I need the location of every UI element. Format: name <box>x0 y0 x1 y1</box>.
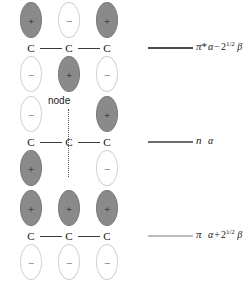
orbital-symbol-superscript: * <box>202 40 208 52</box>
carbon-atom-label: C <box>24 229 38 243</box>
energy-beta: β <box>237 229 242 240</box>
energy-exponent: 1/2 <box>226 228 235 236</box>
energy-operator: + <box>213 229 221 240</box>
orbital-lobe-top-0: + <box>20 2 42 38</box>
orbital-symbol-text: n <box>196 134 202 146</box>
energy-operator <box>213 135 215 146</box>
orbital-lobe-top-2: + <box>96 190 118 226</box>
mo-row-antibonding: + − + − + − C C C π* α−21/2 β <box>0 0 250 94</box>
orbital-lobe-bottom-2: − <box>96 56 118 92</box>
energy-expression-column: α−21/2 β <box>208 0 250 94</box>
energy-expression: α−21/2 β <box>208 40 242 52</box>
node-label: node <box>48 95 70 106</box>
carbon-bond <box>40 48 62 49</box>
orbital-symbol-text: π <box>196 228 202 240</box>
carbon-atom-label: C <box>100 229 114 243</box>
energy-operator: − <box>213 41 221 52</box>
carbon-atom-label: C <box>62 41 76 55</box>
energy-exponent: 1/2 <box>226 40 235 48</box>
orbital-symbol-label: n <box>196 134 202 146</box>
energy-level-line <box>148 47 193 49</box>
energy-expression-column: α <box>208 94 250 188</box>
energy-expression: α <box>208 134 215 146</box>
carbon-skeleton: C C C <box>0 135 130 149</box>
orbital-lobe-bottom-1: + <box>58 56 80 92</box>
orbital-lobe-top-1: − <box>58 2 80 38</box>
orbital-lobe-bottom-0: − <box>20 56 42 92</box>
carbon-atom-label: C <box>24 41 38 55</box>
carbon-skeleton: C C C <box>0 41 130 55</box>
orbital-lobe-top-2: + <box>96 2 118 38</box>
carbon-skeleton: C C C <box>0 229 130 243</box>
carbon-atom-label: C <box>62 229 76 243</box>
orbital-lobe-top-1: + <box>58 190 80 226</box>
carbon-bond <box>78 236 100 237</box>
carbon-bond <box>40 236 62 237</box>
carbon-bond <box>78 142 100 143</box>
orbital-lobe-bottom-1: − <box>58 244 80 280</box>
orbital-lobe-bottom-2: − <box>96 244 118 280</box>
energy-level-line <box>148 141 193 143</box>
carbon-bond <box>40 142 62 143</box>
mo-row-nonbonding: − + + − node C C C n α <box>0 94 250 188</box>
energy-level-line <box>148 235 193 237</box>
orbital-symbol-label: π* <box>196 40 207 52</box>
carbon-bond <box>78 48 100 49</box>
energy-expression: α+21/2 β <box>208 228 242 240</box>
carbon-atom-label: C <box>24 135 38 149</box>
orbital-lobe-bottom-0: − <box>20 244 42 280</box>
orbital-lobe-top-0: + <box>20 190 42 226</box>
energy-expression-column: α+21/2 β <box>208 188 250 281</box>
carbon-atom-label: C <box>100 135 114 149</box>
orbital-symbol-label: π <box>196 228 202 240</box>
carbon-atom-label: C <box>100 41 114 55</box>
carbon-atom-label: C <box>62 135 76 149</box>
mo-row-bonding: + + + − − − C C C π α+21/2 β <box>0 188 250 281</box>
energy-beta: β <box>237 41 242 52</box>
